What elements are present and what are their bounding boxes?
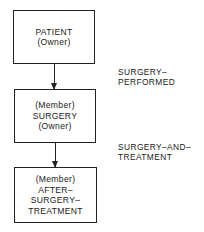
surgery-record-box: (Member) SURGERY (Owner): [14, 89, 96, 143]
record-name: SURGERY: [33, 111, 77, 122]
record-name: TREATMENT: [28, 206, 83, 217]
after-surgery-treatment-record-box: (Member) AFTER– SURGERY– TREATMENT: [14, 167, 97, 223]
set-label-surgery-and-treatment: SURGERY–AND– TREATMENT: [118, 142, 191, 162]
record-name: PATIENT: [35, 27, 72, 38]
record-role: (Member): [36, 174, 76, 185]
patient-record-box: PATIENT (Owner): [13, 10, 95, 64]
record-role: (Owner): [37, 37, 70, 48]
arrow-surgery-performed: [54, 64, 56, 89]
record-name: AFTER–: [38, 185, 73, 196]
record-role: (Member): [35, 100, 75, 111]
record-role: (Owner): [38, 121, 71, 132]
arrow-surgery-and-treatment: [55, 143, 57, 167]
set-label-surgery-performed: SURGERY– PERFORMED: [118, 67, 175, 87]
record-name: SURGERY–: [31, 195, 81, 206]
